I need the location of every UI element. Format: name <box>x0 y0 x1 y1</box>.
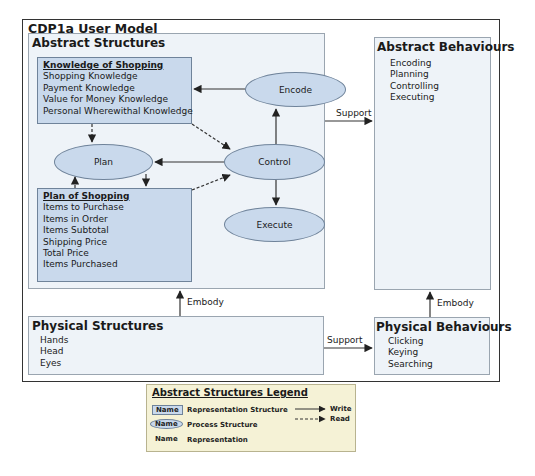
legend-swatch-rect: Name <box>152 405 183 415</box>
legend-read: Read <box>330 415 350 423</box>
legend-swatch-ellipse: Name <box>150 419 183 429</box>
legend-label: Process Structure <box>187 421 258 429</box>
legend-label: Representation Structure <box>187 406 288 414</box>
legend: Abstract Structures Legend Name Represen… <box>146 384 356 452</box>
legend-swatch-text: Name <box>155 435 178 443</box>
legend-write: Write <box>330 405 352 413</box>
legend-arrows <box>295 403 330 427</box>
legend-title: Abstract Structures Legend <box>152 387 308 398</box>
legend-label: Representation <box>187 436 248 444</box>
